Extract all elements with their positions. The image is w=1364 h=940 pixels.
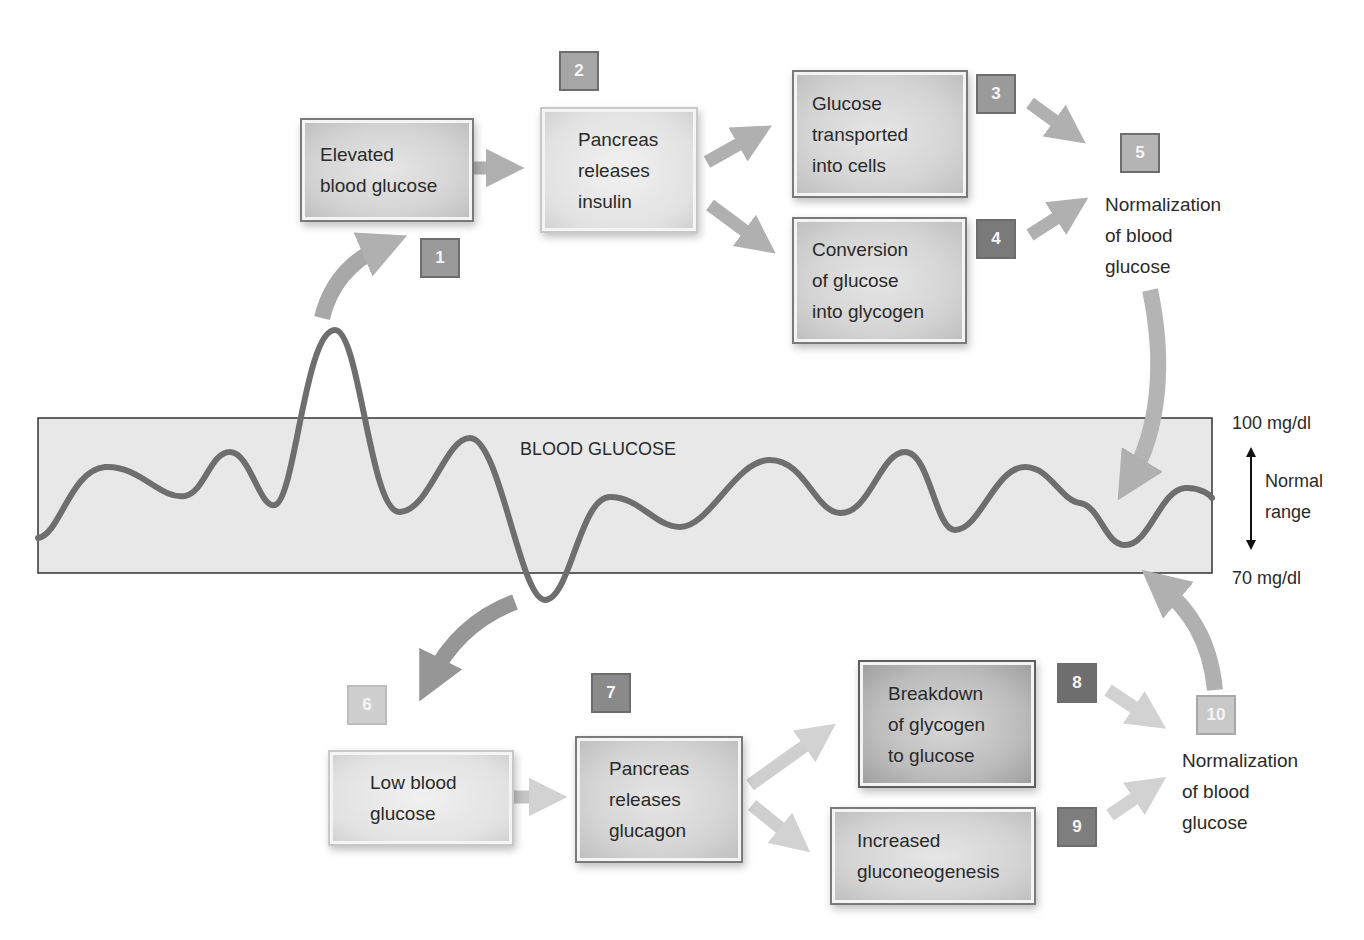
- box-text: Elevated: [320, 139, 437, 170]
- box-text: releases: [609, 784, 689, 815]
- arrow-2-4: [710, 205, 760, 242]
- box-low-blood-glucose: Low bloodglucose: [328, 750, 514, 846]
- label-text: glucose: [1105, 251, 1221, 282]
- arrow-1: [322, 245, 385, 318]
- label-text: Normalization: [1105, 189, 1221, 220]
- box-text: to glucose: [888, 740, 985, 771]
- box-text: of glycogen: [888, 709, 985, 740]
- normal-range-label: Normal range: [1265, 466, 1323, 528]
- arrow-10-band: [1160, 585, 1215, 690]
- box-text: Increased: [857, 825, 1000, 856]
- arrow-9-10: [1110, 788, 1150, 815]
- step-badge-5: 5: [1120, 133, 1160, 173]
- step-badge-1: 1: [420, 238, 460, 278]
- normal-range-line2: range: [1265, 497, 1323, 528]
- arrow-6: [430, 602, 515, 680]
- box-glucose-transported: Glucosetransportedinto cells: [792, 70, 968, 198]
- upper-limit-label: 100 mg/dl: [1232, 408, 1311, 439]
- label-text: of blood: [1105, 220, 1221, 251]
- box-text: insulin: [578, 186, 658, 217]
- box-text: Conversion: [812, 234, 924, 265]
- blood-glucose-label: BLOOD GLUCOSE: [520, 434, 676, 465]
- box-text: releases: [578, 155, 658, 186]
- step-badge-8: 8: [1057, 663, 1097, 703]
- box-text: Glucose: [812, 88, 908, 119]
- box-pancreas-insulin: Pancreasreleasesinsulin: [540, 107, 698, 233]
- step-badge-9: 9: [1057, 807, 1097, 847]
- box-text: glucagon: [609, 815, 689, 846]
- box-elevated-blood-glucose: Elevatedblood glucose: [300, 118, 474, 222]
- label-text: glucose: [1182, 807, 1298, 838]
- box-text: glucose: [370, 798, 457, 829]
- box-text: of glucose: [812, 265, 924, 296]
- label-text: Normalization: [1182, 745, 1298, 776]
- box-text: blood glucose: [320, 170, 437, 201]
- box-text: Pancreas: [578, 124, 658, 155]
- box-breakdown-glycogen: Breakdownof glycogento glucose: [858, 660, 1036, 788]
- arrow-3-5: [1030, 103, 1070, 132]
- box-conversion-glycogen: Conversionof glucoseinto glycogen: [792, 217, 967, 344]
- box-text: transported: [812, 119, 908, 150]
- step-badge-3: 3: [976, 74, 1016, 114]
- step-badge-7: 7: [591, 673, 631, 713]
- box-text: into cells: [812, 150, 908, 181]
- step-badge-4: 4: [976, 219, 1016, 259]
- arrow-8-10: [1108, 690, 1150, 718]
- box-text: into glycogen: [812, 296, 924, 327]
- step-badge-10: 10: [1196, 695, 1236, 735]
- label-text: of blood: [1182, 776, 1298, 807]
- arrow-4-5: [1030, 208, 1072, 235]
- arrow-7-9: [752, 805, 795, 840]
- normal-range-line1: Normal: [1265, 466, 1323, 497]
- box-text: Low blood: [370, 767, 457, 798]
- box-gluconeogenesis: Increasedgluconeogenesis: [830, 807, 1036, 905]
- box-pancreas-glucagon: Pancreasreleasesglucagon: [575, 736, 743, 863]
- box-text: Breakdown: [888, 678, 985, 709]
- box-text: gluconeogenesis: [857, 856, 1000, 887]
- normalization-bottom: Normalization of blood glucose: [1182, 745, 1298, 838]
- arrow-2-3: [707, 135, 755, 162]
- step-badge-2: 2: [559, 51, 599, 91]
- box-text: Pancreas: [609, 753, 689, 784]
- normalization-top: Normalization of blood glucose: [1105, 189, 1221, 282]
- lower-limit-label: 70 mg/dl: [1232, 563, 1301, 594]
- step-badge-6: 6: [347, 685, 387, 725]
- arrow-7-8: [750, 735, 820, 785]
